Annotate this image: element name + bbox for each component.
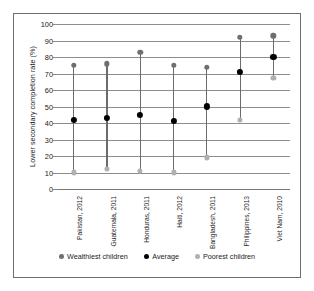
x-tick-label: Guatemala, 2011 [110, 196, 117, 246]
x-tick-label: Honduras, 2011 [143, 196, 150, 243]
gridline [57, 189, 290, 190]
y-tick-label: 40 [45, 119, 53, 128]
data-point-wealthiest [204, 64, 209, 69]
data-point-average [270, 54, 276, 60]
y-axis-title: Lower secondary completion rate (%) [28, 27, 37, 187]
y-tick-mark [53, 90, 57, 91]
gridline [57, 41, 290, 42]
x-tick-label: Philippines, 2013 [243, 196, 250, 247]
x-tick-label: Bangladesh, 2011 [209, 196, 216, 249]
chart-figure: Lower secondary completion rate (%) 0102… [13, 13, 301, 278]
data-point-poorest [171, 170, 176, 175]
data-point-wealthiest [104, 61, 109, 66]
y-tick-label: 20 [45, 152, 53, 161]
x-tick-label: Haiti, 2012 [176, 196, 183, 228]
y-tick-label: 80 [45, 53, 53, 62]
data-point-poorest [204, 155, 209, 160]
range-stem [240, 37, 241, 120]
data-point-average [71, 117, 77, 123]
legend-label: Wealthiest children [67, 252, 128, 261]
y-tick-mark [53, 24, 57, 25]
y-tick-label: 70 [45, 69, 53, 78]
data-point-poorest [104, 167, 109, 172]
data-point-wealthiest [237, 35, 242, 40]
y-tick-mark [53, 173, 57, 174]
y-tick-label: 10 [45, 168, 53, 177]
gridline [57, 24, 290, 25]
data-point-wealthiest [138, 49, 143, 54]
data-point-average [137, 112, 143, 118]
x-tick-label: Pakistan, 2012 [76, 196, 83, 240]
range-stem [206, 67, 207, 158]
y-tick-mark [53, 107, 57, 108]
y-tick-label: 60 [45, 86, 53, 95]
gridline [57, 57, 290, 58]
y-tick-mark [53, 140, 57, 141]
data-point-wealthiest [171, 63, 176, 68]
y-tick-label: 0 [49, 185, 53, 194]
y-tick-label: 90 [45, 36, 53, 45]
legend-dot-icon [195, 254, 200, 259]
y-tick-label: 30 [45, 135, 53, 144]
legend-label: Average [152, 252, 179, 261]
legend-dot-icon [59, 254, 64, 259]
y-tick-label: 50 [45, 102, 53, 111]
y-tick-mark [53, 189, 57, 190]
data-point-average [104, 115, 110, 121]
legend-item-average[interactable]: Average [144, 252, 179, 261]
y-tick-mark [53, 74, 57, 75]
data-point-poorest [271, 76, 276, 81]
data-point-poorest [71, 170, 76, 175]
legend-item-poorest[interactable]: Poorest children [195, 252, 255, 261]
y-tick-mark [53, 57, 57, 58]
plot-area: 0102030405060708090100 [57, 24, 290, 189]
data-point-average [204, 103, 210, 109]
legend-dot-icon [144, 254, 149, 259]
y-tick-mark [53, 123, 57, 124]
data-point-wealthiest [71, 63, 76, 68]
y-tick-mark [53, 156, 57, 157]
chart-legend: Wealthiest childrenAveragePoorest childr… [14, 252, 300, 261]
data-point-wealthiest [271, 33, 276, 38]
x-tick-label: Viet Nam, 2010 [276, 196, 283, 242]
legend-label: Poorest children [203, 252, 255, 261]
data-point-poorest [237, 117, 242, 122]
y-tick-label: 100 [41, 20, 53, 29]
y-tick-mark [53, 41, 57, 42]
legend-item-wealthiest[interactable]: Wealthiest children [59, 252, 128, 261]
